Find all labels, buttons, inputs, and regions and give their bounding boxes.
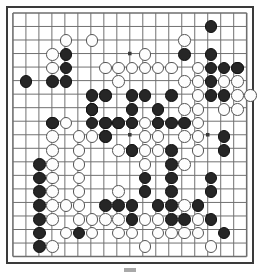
white-stone[interactable] bbox=[86, 213, 99, 226]
black-stone[interactable] bbox=[33, 185, 46, 198]
white-stone[interactable] bbox=[178, 158, 191, 171]
white-stone[interactable] bbox=[46, 172, 59, 185]
black-stone[interactable] bbox=[165, 117, 178, 130]
white-stone[interactable] bbox=[218, 103, 231, 116]
white-stone[interactable] bbox=[192, 144, 205, 157]
black-stone[interactable] bbox=[218, 130, 231, 143]
black-stone[interactable] bbox=[165, 172, 178, 185]
black-stone[interactable] bbox=[126, 199, 139, 212]
black-stone[interactable] bbox=[231, 62, 244, 75]
black-stone[interactable] bbox=[60, 48, 73, 61]
black-stone[interactable] bbox=[46, 117, 59, 130]
black-stone[interactable] bbox=[33, 240, 46, 253]
black-stone[interactable] bbox=[126, 213, 139, 226]
black-stone[interactable] bbox=[152, 199, 165, 212]
white-stone[interactable] bbox=[139, 213, 152, 226]
white-stone[interactable] bbox=[46, 130, 59, 143]
white-stone[interactable] bbox=[73, 158, 86, 171]
black-stone[interactable] bbox=[60, 62, 73, 75]
black-stone[interactable] bbox=[205, 89, 218, 102]
white-stone[interactable] bbox=[73, 199, 86, 212]
white-stone[interactable] bbox=[112, 185, 125, 198]
black-stone[interactable] bbox=[33, 172, 46, 185]
white-stone[interactable] bbox=[46, 144, 59, 157]
white-stone[interactable] bbox=[112, 62, 125, 75]
white-stone[interactable] bbox=[139, 158, 152, 171]
black-stone[interactable] bbox=[165, 89, 178, 102]
white-stone[interactable] bbox=[231, 103, 244, 116]
black-stone[interactable] bbox=[152, 117, 165, 130]
black-stone[interactable] bbox=[99, 117, 112, 130]
white-stone[interactable] bbox=[139, 117, 152, 130]
white-stone[interactable] bbox=[73, 130, 86, 143]
white-stone[interactable] bbox=[126, 227, 139, 240]
white-stone[interactable] bbox=[178, 75, 191, 88]
white-stone[interactable] bbox=[178, 227, 191, 240]
black-stone[interactable] bbox=[126, 117, 139, 130]
black-stone[interactable] bbox=[126, 89, 139, 102]
white-stone[interactable] bbox=[165, 227, 178, 240]
white-stone[interactable] bbox=[60, 34, 73, 47]
white-stone[interactable] bbox=[165, 62, 178, 75]
white-stone[interactable] bbox=[231, 89, 244, 102]
white-stone[interactable] bbox=[126, 62, 139, 75]
white-stone[interactable] bbox=[60, 117, 73, 130]
white-stone[interactable] bbox=[192, 62, 205, 75]
white-stone[interactable] bbox=[60, 199, 73, 212]
black-stone[interactable] bbox=[165, 158, 178, 171]
black-stone[interactable] bbox=[99, 130, 112, 143]
black-stone[interactable] bbox=[165, 199, 178, 212]
black-stone[interactable] bbox=[46, 75, 59, 88]
black-stone[interactable] bbox=[20, 75, 33, 88]
white-stone[interactable] bbox=[46, 62, 59, 75]
white-stone[interactable] bbox=[139, 240, 152, 253]
black-stone[interactable] bbox=[205, 20, 218, 33]
black-stone[interactable] bbox=[205, 75, 218, 88]
black-stone[interactable] bbox=[192, 199, 205, 212]
white-stone[interactable] bbox=[60, 227, 73, 240]
white-stone[interactable] bbox=[205, 240, 218, 253]
black-stone[interactable] bbox=[218, 62, 231, 75]
black-stone[interactable] bbox=[205, 48, 218, 61]
white-stone[interactable] bbox=[46, 240, 59, 253]
white-stone[interactable] bbox=[73, 172, 86, 185]
white-stone[interactable] bbox=[46, 48, 59, 61]
black-stone[interactable] bbox=[112, 199, 125, 212]
white-stone[interactable] bbox=[73, 185, 86, 198]
black-stone[interactable] bbox=[126, 103, 139, 116]
black-stone[interactable] bbox=[139, 172, 152, 185]
black-stone[interactable] bbox=[99, 199, 112, 212]
black-stone[interactable] bbox=[218, 89, 231, 102]
goban[interactable] bbox=[6, 6, 254, 264]
stone-layer[interactable] bbox=[8, 8, 252, 262]
white-stone[interactable] bbox=[139, 62, 152, 75]
white-stone[interactable] bbox=[112, 75, 125, 88]
white-stone[interactable] bbox=[152, 62, 165, 75]
black-stone[interactable] bbox=[218, 144, 231, 157]
white-stone[interactable] bbox=[73, 213, 86, 226]
black-stone[interactable] bbox=[33, 213, 46, 226]
black-stone[interactable] bbox=[112, 117, 125, 130]
white-stone[interactable] bbox=[152, 144, 165, 157]
black-stone[interactable] bbox=[205, 172, 218, 185]
black-stone[interactable] bbox=[60, 75, 73, 88]
white-stone[interactable] bbox=[192, 103, 205, 116]
black-stone[interactable] bbox=[152, 103, 165, 116]
black-stone[interactable] bbox=[99, 89, 112, 102]
white-stone[interactable] bbox=[139, 48, 152, 61]
white-stone[interactable] bbox=[178, 130, 191, 143]
black-stone[interactable] bbox=[178, 117, 191, 130]
white-stone[interactable] bbox=[46, 185, 59, 198]
black-stone[interactable] bbox=[165, 144, 178, 157]
black-stone[interactable] bbox=[218, 227, 231, 240]
white-stone[interactable] bbox=[152, 130, 165, 143]
white-stone[interactable] bbox=[192, 89, 205, 102]
black-stone[interactable] bbox=[126, 144, 139, 157]
white-stone[interactable] bbox=[112, 213, 125, 226]
white-stone[interactable] bbox=[139, 144, 152, 157]
black-stone[interactable] bbox=[139, 89, 152, 102]
white-stone[interactable] bbox=[46, 158, 59, 171]
black-stone[interactable] bbox=[139, 185, 152, 198]
black-stone[interactable] bbox=[86, 117, 99, 130]
white-stone[interactable] bbox=[152, 227, 165, 240]
